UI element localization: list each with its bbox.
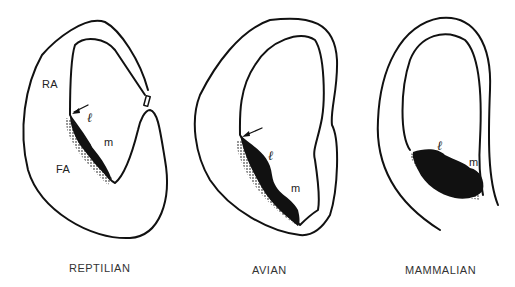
mammalian-section bbox=[378, 18, 498, 230]
caption-avian: AVIAN bbox=[252, 264, 287, 276]
caption-reptilian: REPTILIAN bbox=[69, 262, 130, 274]
reptilian-section bbox=[23, 21, 167, 238]
mammalian-label-l: ℓ bbox=[437, 138, 443, 154]
reptilian-label-l: ℓ bbox=[87, 110, 93, 126]
reptilian-outer-outline bbox=[23, 21, 167, 238]
reptilian-arrowhead bbox=[72, 108, 80, 114]
reptilian-label-m: m bbox=[104, 136, 113, 148]
avian-label-m: m bbox=[291, 182, 300, 194]
avian-arrowhead bbox=[242, 131, 250, 137]
avian-section bbox=[195, 19, 337, 236]
caption-mammalian: MAMMALIAN bbox=[405, 264, 476, 276]
label-fa: FA bbox=[56, 163, 70, 175]
avian-label-l: ℓ bbox=[268, 148, 274, 164]
label-ra: RA bbox=[42, 78, 58, 90]
reptilian-gap-marker bbox=[144, 96, 150, 107]
mammalian-label-m: m bbox=[469, 156, 478, 168]
